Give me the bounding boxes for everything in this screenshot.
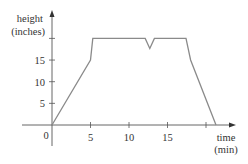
y-tick-label: 5 bbox=[40, 98, 45, 109]
x-axis-label-line1: time bbox=[217, 132, 236, 143]
x-tick-label: 15 bbox=[162, 132, 173, 143]
x-axis-arrow-icon bbox=[229, 123, 236, 128]
data-series bbox=[52, 38, 216, 125]
axis-ticks: 5101551015 bbox=[35, 38, 207, 143]
y-tick-label: 10 bbox=[35, 77, 46, 88]
y-tick-label: 15 bbox=[35, 55, 46, 66]
x-tick-label: 10 bbox=[124, 132, 135, 143]
origin-label: 0 bbox=[43, 130, 48, 141]
x-axis-label-line2: (min) bbox=[214, 144, 238, 156]
height-line bbox=[52, 38, 216, 125]
line-chart: 5101551015 height (inches) time (min) 0 bbox=[0, 0, 248, 164]
y-axis-arrow-icon bbox=[50, 10, 55, 17]
x-tick-label: 5 bbox=[88, 132, 93, 143]
y-axis-label-line2: (inches) bbox=[11, 26, 45, 38]
y-axis-label-line1: height bbox=[17, 13, 43, 24]
